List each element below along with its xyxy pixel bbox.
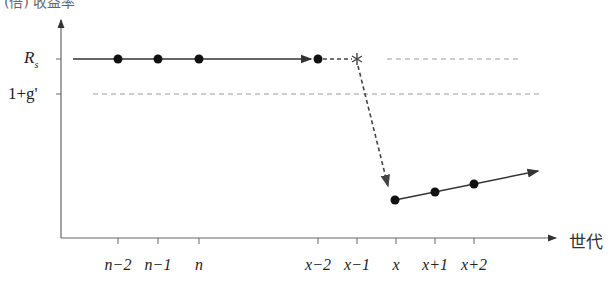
- x-tick-label: n−1: [145, 256, 172, 274]
- series-after-dots: [391, 180, 479, 205]
- series-after-line: [395, 171, 538, 200]
- x-tick-label: x−2: [305, 256, 331, 274]
- y-ticks: [56, 59, 61, 94]
- transition-dashed-arrow: [358, 66, 388, 186]
- y-label-1-plus-g: 1+g': [8, 84, 38, 104]
- x-tick-label: n: [195, 256, 203, 274]
- x-ticks: [118, 238, 474, 244]
- y-label-rs: Rs: [24, 48, 38, 69]
- x-axis-title: 世代: [569, 228, 603, 253]
- asterisk-marker: [352, 53, 362, 65]
- y-label-rs-sub: s: [34, 59, 38, 70]
- x-tick-label: n−2: [105, 256, 132, 274]
- y-label-rs-text: R: [24, 48, 34, 67]
- x-tick-label: x+2: [461, 256, 487, 274]
- x-tick-label: x−1: [344, 256, 370, 274]
- y-axis-title: (倍) 收益率: [4, 0, 75, 11]
- x-tick-label: x: [392, 256, 399, 274]
- diagram-canvas: [0, 0, 616, 289]
- x-tick-label: x+1: [422, 256, 448, 274]
